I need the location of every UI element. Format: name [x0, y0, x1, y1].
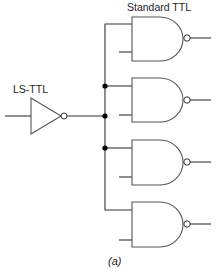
junction-dot — [102, 145, 107, 150]
nand-body-icon — [132, 140, 183, 185]
nand-bubble-icon — [184, 97, 190, 103]
nand-gate-2 — [119, 78, 211, 122]
circuit-diagram — [0, 0, 217, 275]
ls-ttl-inverter — [5, 98, 105, 134]
nand-body-icon — [132, 78, 183, 122]
nand-body-icon — [132, 202, 183, 247]
junction-dot — [102, 113, 107, 118]
nand-gate-3 — [119, 140, 211, 185]
nand-gate-1 — [119, 17, 211, 61]
junction-dot — [102, 83, 107, 88]
inverter-bubble-icon — [61, 113, 67, 119]
nand-bubble-icon — [184, 35, 190, 41]
nand-bubble-icon — [184, 159, 190, 165]
nand-gate-4 — [119, 202, 211, 247]
inverter-triangle-icon — [31, 98, 61, 134]
nand-body-icon — [132, 17, 183, 61]
nand-bubble-icon — [184, 221, 190, 227]
